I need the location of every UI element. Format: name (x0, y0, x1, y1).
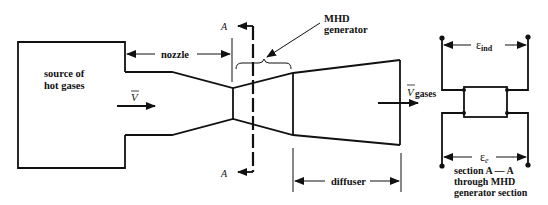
section-caption-line1: section A — A (454, 165, 515, 176)
section-circuit (442, 38, 528, 166)
section-marker-top: A (220, 21, 228, 32)
circuit-top-wire (442, 38, 464, 90)
mhd-label-line2: generator (324, 24, 368, 35)
source-label: source of (44, 68, 85, 79)
svg-text:V: V (131, 91, 139, 103)
circuit-bottom-wire (442, 113, 464, 166)
circuit-terminals (439, 34, 530, 168)
inlet-velocity-arrow: V (117, 91, 155, 106)
diffuser-label: diffuser (331, 176, 366, 187)
section-marker-bottom: A (220, 168, 228, 179)
outlet-velocity-arrow: V gases (378, 85, 436, 103)
nozzle-dimension (127, 38, 232, 82)
nozzle-top-wall (125, 60, 400, 88)
section-caption-line3: generator section (454, 187, 528, 198)
nozzle-label: nozzle (161, 49, 189, 60)
mhd-generator-diagram: source of hot gases V nozzle MHD generat… (0, 0, 548, 205)
mhd-label: MHD (324, 13, 350, 24)
emf-external-label: εe (480, 150, 489, 165)
mhd-brace (236, 23, 320, 69)
emf-induced-label: εind (476, 38, 493, 53)
circuit-bottom-wire-right (507, 113, 528, 166)
section-caption-line2: through MHD (454, 176, 515, 187)
generator-cross-section (464, 87, 507, 117)
svg-text:V: V (407, 86, 415, 98)
nozzle-bottom-wall (125, 119, 400, 145)
flow-channel (18, 42, 400, 168)
source-label-line2: hot gases (44, 80, 85, 91)
section-cut-line (238, 26, 253, 172)
svg-text:gases: gases (415, 89, 436, 99)
channel-top-wall (18, 42, 125, 168)
circuit-top-wire-right (507, 38, 528, 90)
